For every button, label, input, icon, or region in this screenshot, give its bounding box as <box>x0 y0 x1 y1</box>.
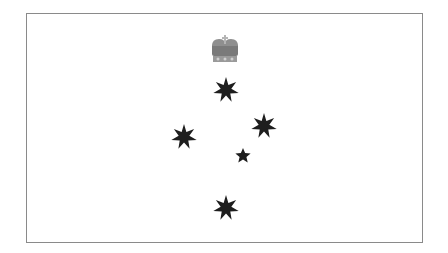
crown-jewel <box>224 58 227 61</box>
crown-cross-horizontal <box>222 37 228 39</box>
crown-jewel <box>217 58 220 61</box>
crown-cross-vertical <box>224 35 226 44</box>
crown-jewel <box>231 58 234 61</box>
flag <box>0 0 448 253</box>
